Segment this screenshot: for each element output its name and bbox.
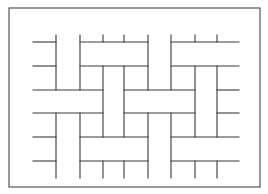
- vertical-lines: [56, 35, 217, 178]
- weave-diagram: [0, 0, 268, 194]
- diagram-frame: [9, 8, 260, 187]
- weave-svg: [0, 0, 268, 194]
- horizontal-lines: [33, 42, 239, 161]
